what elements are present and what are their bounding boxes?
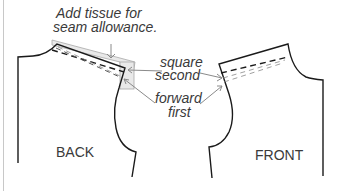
- back-piece-label: BACK: [56, 145, 94, 159]
- tissue-annotation-line1: Add tissue for: [56, 6, 142, 20]
- diagram-canvas: Add tissue for seam allowance. square se…: [0, 0, 339, 191]
- front-shoulder-dash-2: [223, 60, 285, 78]
- front-piece-label: FRONT: [255, 148, 303, 162]
- forward-label-line1: forward: [155, 91, 202, 105]
- forward-label-line2: first: [168, 105, 191, 119]
- square-label-line2: second: [155, 68, 200, 82]
- tissue-arrow: [107, 44, 115, 58]
- forward-leader-right: [200, 86, 222, 104]
- tissue-annotation-line2: seam allowance.: [53, 20, 157, 34]
- square-leader-right: [200, 73, 222, 81]
- forward-leader-left: [124, 79, 155, 103]
